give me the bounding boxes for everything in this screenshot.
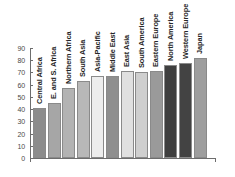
y-axis-ticks-layer: 0102030405060708090 — [0, 0, 30, 177]
y-axis-tick-label: 30 — [18, 118, 25, 125]
y-axis-tick-label: 70 — [18, 69, 25, 76]
y-axis-tick-label: 90 — [18, 45, 25, 52]
y-axis-tick-label: 60 — [18, 81, 25, 88]
bar[interactable] — [48, 103, 61, 158]
bar-category-label: Eastern Europe — [151, 14, 160, 67]
bar-group: Central Africa — [33, 48, 46, 158]
bar-group: South Asia — [77, 48, 90, 158]
bar-group: Northern Africa — [62, 48, 75, 158]
y-axis-tick-label: 10 — [18, 142, 25, 149]
bar-category-label: Northern Africa — [64, 32, 73, 84]
bar[interactable] — [77, 81, 90, 158]
bar[interactable] — [150, 71, 163, 158]
bar[interactable] — [91, 76, 104, 158]
bar-category-label: Central Africa — [35, 57, 44, 104]
bar-group: E. and S. Africa — [48, 48, 61, 158]
bar-group: North America — [164, 48, 177, 158]
bar-category-label: North America — [166, 12, 175, 61]
bar-group: Middle East — [106, 48, 119, 158]
bar-category-label: Middle East — [108, 32, 117, 72]
x-axis-start-tick — [30, 158, 31, 162]
bar-category-label: Western Europe — [181, 4, 190, 59]
x-axis-end-tick — [215, 158, 216, 162]
bar-category-label: E. and S. Africa — [49, 47, 58, 99]
bar-group: Eastern Europe — [150, 48, 163, 158]
bar[interactable] — [62, 88, 75, 158]
y-axis-tick-label: 20 — [18, 130, 25, 137]
bar-category-label: East Asia — [122, 35, 131, 67]
bar-group: Japan — [194, 48, 207, 158]
y-axis-tick-label: 40 — [18, 106, 25, 113]
y-axis-tick-label: 50 — [18, 93, 25, 100]
bar-chart: 0102030405060708090 Central AfricaE. and… — [0, 0, 235, 177]
bar[interactable] — [106, 76, 119, 158]
bar-group: Asia-Pacific — [91, 48, 104, 158]
bar-group: East Asia — [121, 48, 134, 158]
bar[interactable] — [164, 65, 177, 158]
bar-group: Western Europe — [179, 48, 192, 158]
x-axis-line — [30, 158, 216, 159]
bar[interactable] — [33, 108, 46, 158]
bar[interactable] — [179, 63, 192, 158]
bar-category-label: South Asia — [78, 40, 87, 77]
bar-category-label: Asia-Pacific — [93, 31, 102, 72]
bar-category-label: Japan — [195, 33, 204, 54]
plot-area: Central AfricaE. and S. AfricaNorthern A… — [31, 48, 216, 158]
bar[interactable] — [135, 72, 148, 158]
bar[interactable] — [194, 58, 207, 158]
bar-category-label: South America — [137, 18, 146, 69]
y-axis-tick-label: 80 — [18, 57, 25, 64]
bar-group: South America — [135, 48, 148, 158]
bar[interactable] — [121, 71, 134, 158]
y-axis-tick-label: 0 — [21, 155, 25, 162]
